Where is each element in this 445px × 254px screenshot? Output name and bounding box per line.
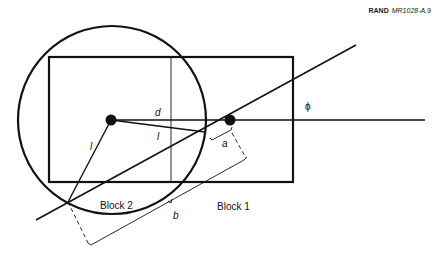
geometry-diagram: d l l a b ϕ Block 2 Block 1	[0, 0, 445, 254]
dashed-extension-right	[232, 133, 246, 158]
segment-l-left	[68, 120, 111, 202]
right-point-marker	[225, 115, 236, 126]
label-block-1: Block 1	[217, 201, 250, 212]
label-block-2: Block 2	[100, 200, 133, 211]
label-l-upper: l	[157, 131, 160, 142]
bracket-a	[210, 127, 232, 140]
left-point-marker	[106, 115, 117, 126]
slanted-line	[36, 45, 356, 220]
label-l-left: l	[90, 141, 93, 152]
label-a: a	[222, 138, 228, 149]
label-phi: ϕ	[305, 101, 311, 112]
label-d: d	[155, 107, 161, 118]
label-b: b	[173, 210, 179, 221]
